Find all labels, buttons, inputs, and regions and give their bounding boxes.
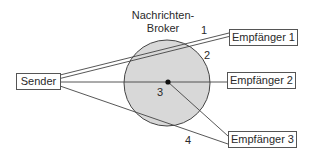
sender-box: Sender xyxy=(16,73,61,90)
broker-title: Nachrichten- Broker xyxy=(123,9,203,35)
route-label-2: 2 xyxy=(204,49,210,61)
receiver-1-box: Empfänger 1 xyxy=(229,29,298,46)
broker-title-line1: Nachrichten- xyxy=(123,9,203,22)
broker-center-dot xyxy=(165,79,170,84)
route-label-1: 1 xyxy=(201,24,207,36)
route-label-3: 3 xyxy=(157,86,163,98)
route-label-4: 4 xyxy=(185,134,191,146)
receiver-3-box: Empfänger 3 xyxy=(228,131,297,148)
receiver-2-box: Empfänger 2 xyxy=(227,72,296,89)
broker-title-line2: Broker xyxy=(123,22,203,35)
